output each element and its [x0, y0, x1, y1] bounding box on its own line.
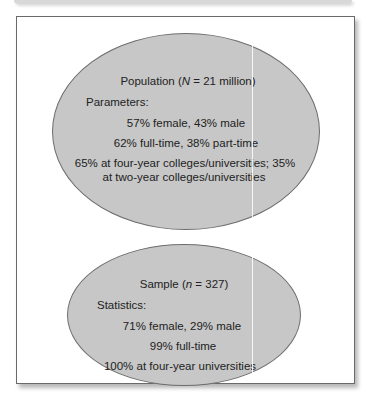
sample-title-suffix: = 327) [192, 278, 228, 290]
population-item-gender: 57% female, 43% male [127, 116, 245, 130]
top-decorative-band [14, 0, 352, 4]
sample-item-enrollment: 99% full-time [150, 339, 216, 353]
parameters-label: Parameters: [86, 95, 149, 109]
sample-title-prefix: Sample ( [140, 278, 186, 290]
statistics-label: Statistics: [97, 298, 146, 312]
population-title-suffix: = 21 million) [190, 75, 256, 87]
sample-title: Sample (n = 327) [140, 277, 229, 291]
population-ellipse [52, 33, 320, 230]
population-item-institution-line1: 65% at four-year colleges/universities; … [75, 156, 296, 170]
population-size-variable: N [182, 75, 190, 87]
population-item-institution-line2: at two-year colleges/universities [103, 170, 266, 184]
population-title: Population (N = 21 million) [120, 74, 255, 88]
population-title-prefix: Population ( [120, 75, 181, 87]
sample-item-gender: 71% female, 29% male [123, 319, 241, 333]
population-item-enrollment: 62% full-time, 38% part-time [114, 136, 258, 150]
scan-line-artifact [252, 17, 253, 382]
sample-item-institution: 100% at four-year universities [104, 359, 256, 373]
